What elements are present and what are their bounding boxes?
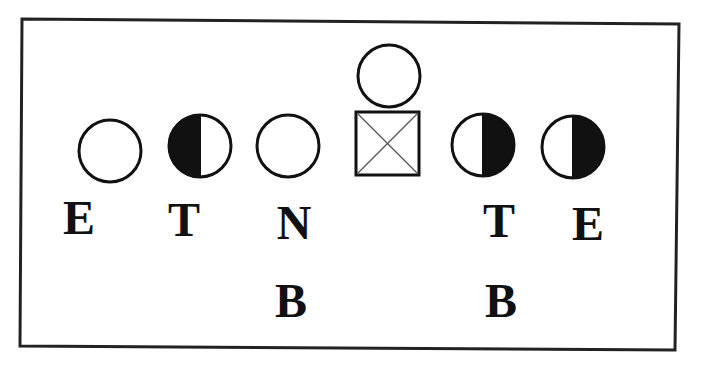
left-end-circle-icon bbox=[79, 120, 141, 182]
quarterback-circle-icon bbox=[358, 45, 420, 107]
right-tackle-half-filled-circle-icon bbox=[452, 114, 514, 176]
diagram-frame bbox=[20, 19, 679, 350]
left-tackle-half-filled-circle-icon bbox=[169, 115, 231, 177]
defensive-formation-diagram: E T N B T E B bbox=[0, 0, 702, 368]
label-nose: N bbox=[277, 196, 312, 249]
label-right-tackle: T bbox=[483, 194, 515, 247]
label-left-end: E bbox=[63, 191, 95, 244]
label-left-tackle: T bbox=[168, 193, 200, 246]
right-end-half-filled-circle-icon bbox=[542, 116, 604, 178]
label-left-backer: B bbox=[275, 274, 307, 327]
label-right-backer: B bbox=[485, 274, 517, 327]
label-right-end: E bbox=[572, 197, 604, 250]
center-square-x-icon bbox=[356, 112, 419, 175]
nose-circle-icon bbox=[257, 115, 319, 177]
